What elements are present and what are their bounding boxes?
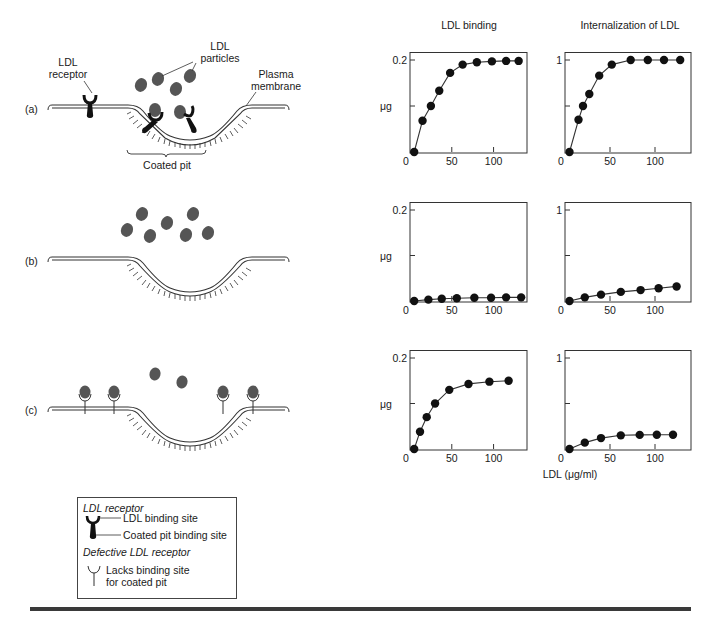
data-point bbox=[565, 148, 573, 156]
data-point bbox=[653, 431, 661, 439]
chart-c-internalization: 1050100 bbox=[535, 350, 701, 476]
bottom-rule bbox=[30, 607, 691, 611]
y-tick-label: 0.2 bbox=[392, 54, 407, 66]
col-title-internalization: Internalization of LDL bbox=[555, 19, 705, 31]
chart-b-internalization: 1050100 bbox=[535, 202, 701, 328]
data-point bbox=[565, 297, 573, 305]
data-point bbox=[504, 377, 512, 385]
bound-receptor-icon bbox=[174, 105, 197, 133]
coated-pit-label: Coated pit bbox=[126, 159, 208, 171]
y-tick-label: 1 bbox=[556, 54, 562, 66]
label-line: LDL bbox=[195, 40, 245, 52]
label-line: receptor bbox=[40, 68, 96, 80]
chart-a-binding: 0.2050100 bbox=[380, 52, 537, 179]
data-point bbox=[597, 434, 605, 442]
defective-receptor-icon bbox=[88, 566, 100, 586]
legend-box: LDL receptor LDL binding site Coated pit… bbox=[77, 497, 237, 599]
x-tick-label: 100 bbox=[646, 304, 664, 316]
panel-label-c: (c) bbox=[25, 404, 37, 416]
data-point bbox=[627, 56, 635, 64]
panel-c-diagram bbox=[48, 366, 289, 451]
x-tick-label: 50 bbox=[604, 304, 616, 316]
plasma-membrane-label: Plasma membrane bbox=[248, 68, 304, 92]
data-point bbox=[424, 295, 432, 303]
data-point bbox=[410, 297, 418, 305]
data-point bbox=[416, 428, 424, 436]
label-line: for coated pit bbox=[106, 576, 189, 588]
data-point bbox=[581, 438, 589, 446]
defective-receptor-icon bbox=[217, 386, 229, 415]
label-line: particles bbox=[195, 52, 245, 64]
legend-ldl-binding-site: LDL binding site bbox=[123, 512, 198, 524]
data-point bbox=[636, 431, 644, 439]
x-tick-label: 100 bbox=[485, 304, 503, 316]
data-point bbox=[579, 102, 587, 110]
data-point bbox=[574, 116, 582, 124]
chart-a-internalization: 1050100 bbox=[535, 52, 701, 179]
label-line: LDL bbox=[40, 56, 96, 68]
y-tick-label: 0.2 bbox=[392, 352, 407, 364]
ldl-particles-label: LDL particles bbox=[195, 40, 245, 64]
data-point bbox=[487, 294, 495, 302]
x-tick-label: 50 bbox=[604, 452, 616, 464]
x-tick-label: 0 bbox=[403, 452, 409, 464]
data-point bbox=[597, 290, 605, 298]
x-tick-label: 0 bbox=[558, 155, 564, 167]
x-tick-label: 0 bbox=[558, 452, 564, 464]
data-point bbox=[473, 58, 481, 66]
ldl-particle-icon bbox=[148, 366, 189, 389]
data-point bbox=[488, 57, 496, 65]
data-point bbox=[446, 69, 454, 77]
data-point bbox=[669, 431, 677, 439]
x-tick-label: 50 bbox=[446, 155, 458, 167]
data-point bbox=[438, 295, 446, 303]
chart-c-binding: 0.2050100 bbox=[380, 350, 537, 476]
x-tick-label: 100 bbox=[485, 155, 503, 167]
x-tick-label: 100 bbox=[646, 155, 664, 167]
legend-coated-pit-binding-site: Coated pit binding site bbox=[123, 529, 227, 541]
data-point bbox=[672, 282, 680, 290]
data-point bbox=[585, 90, 593, 98]
data-point bbox=[427, 102, 435, 110]
chart-b-binding: 0.2050100 bbox=[380, 202, 537, 328]
data-point bbox=[644, 56, 652, 64]
x-tick-label: 0 bbox=[403, 304, 409, 316]
data-point bbox=[464, 380, 472, 388]
data-point bbox=[418, 117, 426, 125]
x-tick-label: 50 bbox=[446, 304, 458, 316]
data-point bbox=[660, 56, 668, 64]
data-point bbox=[423, 413, 431, 421]
ldl-particle-icon bbox=[119, 205, 216, 244]
col-title-ldl-binding: LDL binding bbox=[410, 19, 528, 31]
data-point bbox=[410, 148, 418, 156]
data-point bbox=[435, 87, 443, 95]
y-tick-label: 1 bbox=[556, 204, 562, 216]
data-point bbox=[565, 445, 573, 453]
ldl-receptor-label: LDL receptor bbox=[40, 56, 96, 80]
legend-title-defective-receptor: Defective LDL receptor bbox=[83, 546, 190, 558]
ldl-receptor-icon bbox=[84, 95, 96, 118]
x-tick-label: 50 bbox=[446, 452, 458, 464]
data-point bbox=[431, 399, 439, 407]
ldl-receptor-icon bbox=[87, 516, 99, 539]
y-tick-label: 1 bbox=[556, 352, 562, 364]
data-point bbox=[617, 431, 625, 439]
x-tick-label: 0 bbox=[403, 155, 409, 167]
ldl-particle-icon bbox=[133, 67, 198, 97]
x-tick-label: 0 bbox=[558, 304, 564, 316]
label-line: Plasma bbox=[248, 68, 304, 80]
panel-label-b: (b) bbox=[25, 255, 38, 267]
data-point bbox=[514, 57, 522, 65]
data-point bbox=[636, 286, 644, 294]
data-point bbox=[654, 284, 662, 292]
data-point bbox=[445, 386, 453, 394]
plot-frame bbox=[410, 203, 527, 303]
data-point bbox=[502, 293, 510, 301]
label-line: Lacks binding site bbox=[106, 564, 189, 576]
label-line: membrane bbox=[248, 80, 304, 92]
data-point bbox=[595, 71, 603, 79]
data-point bbox=[470, 294, 478, 302]
x-tick-label: 100 bbox=[485, 452, 503, 464]
data-point bbox=[458, 60, 466, 68]
data-point bbox=[517, 293, 525, 301]
